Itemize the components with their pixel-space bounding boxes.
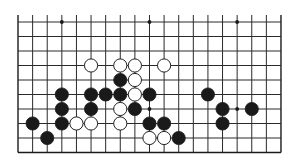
stones-layer: [26, 59, 258, 145]
black-stone[interactable]: [158, 117, 171, 130]
black-stone[interactable]: [201, 88, 214, 101]
black-stone[interactable]: [245, 102, 258, 115]
black-stone[interactable]: [216, 102, 229, 115]
black-stone[interactable]: [216, 117, 229, 130]
white-stone[interactable]: [143, 131, 156, 144]
white-stone[interactable]: [158, 59, 171, 72]
black-stone[interactable]: [143, 117, 156, 130]
black-stone[interactable]: [26, 117, 39, 130]
white-stone[interactable]: [114, 59, 127, 72]
white-stone[interactable]: [70, 117, 83, 130]
black-stone[interactable]: [84, 88, 97, 101]
star-point: [235, 107, 239, 111]
go-board: [0, 0, 296, 168]
white-stone[interactable]: [128, 59, 141, 72]
star-point: [60, 20, 64, 24]
white-stone[interactable]: [158, 131, 171, 144]
black-stone[interactable]: [128, 102, 141, 115]
white-stone[interactable]: [84, 117, 97, 130]
star-point: [148, 107, 152, 111]
white-stone[interactable]: [128, 73, 141, 86]
star-point: [235, 20, 239, 24]
black-stone[interactable]: [84, 102, 97, 115]
black-stone[interactable]: [99, 88, 112, 101]
black-stone[interactable]: [114, 73, 127, 86]
black-stone[interactable]: [172, 131, 185, 144]
black-stone[interactable]: [41, 131, 54, 144]
white-stone[interactable]: [114, 117, 127, 130]
white-stone[interactable]: [128, 88, 141, 101]
black-stone[interactable]: [55, 88, 68, 101]
black-stone[interactable]: [114, 88, 127, 101]
black-stone[interactable]: [55, 117, 68, 130]
black-stone[interactable]: [55, 102, 68, 115]
white-stone[interactable]: [84, 59, 97, 72]
white-stone[interactable]: [114, 102, 127, 115]
star-point: [148, 20, 152, 24]
black-stone[interactable]: [143, 88, 156, 101]
